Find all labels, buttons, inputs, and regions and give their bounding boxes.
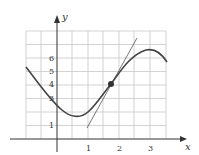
axes bbox=[10, 20, 183, 152]
y-tick-4: 4 bbox=[49, 80, 54, 89]
y-tick-6: 6 bbox=[49, 54, 54, 63]
x-tick-2: 2 bbox=[117, 144, 122, 153]
y-axis-arrow-icon bbox=[54, 15, 60, 23]
tangent-point bbox=[108, 81, 114, 87]
curve bbox=[26, 50, 167, 117]
y-tick-1: 1 bbox=[49, 121, 54, 130]
x-tick-1: 1 bbox=[86, 144, 91, 153]
y-tick-3: 3 bbox=[49, 94, 54, 103]
graph-figure: 1 2 3 1 3 4 5 6 x y bbox=[0, 0, 199, 155]
grid bbox=[26, 31, 166, 139]
x-tick-3: 3 bbox=[148, 144, 153, 153]
x-axis-label: x bbox=[185, 141, 191, 152]
y-axis-label: y bbox=[61, 11, 68, 22]
y-tick-5: 5 bbox=[49, 67, 54, 76]
